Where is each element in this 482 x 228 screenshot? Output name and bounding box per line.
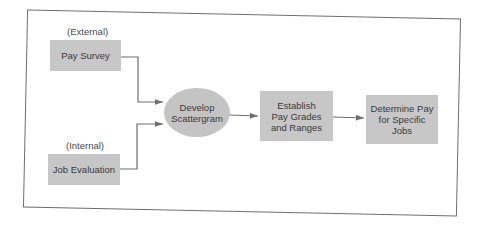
node-establish-pay-grades: Establish Pay Grades and Ranges: [260, 91, 333, 141]
flowchart-diagram: (External) Pay Survey (Internal) Job Eva…: [0, 0, 482, 228]
node-label: Pay Survey: [61, 50, 110, 61]
node-determine-pay: Determine Pay for Specific Jobs: [366, 95, 438, 144]
edge-establish-to-determine: [333, 117, 364, 118]
internal-caption: (Internal): [66, 140, 104, 151]
node-label: Determine Pay for Specific Jobs: [371, 103, 434, 136]
edge-pay-survey-to-scattergram: [120, 57, 163, 102]
node-job-evaluation: Job Evaluation: [48, 154, 120, 185]
node-label: Establish Pay Grades and Ranges: [271, 100, 322, 133]
edge-scattergram-to-establish: [229, 115, 258, 116]
edge-job-evaluation-to-scattergram: [119, 124, 163, 169]
external-caption: (External): [67, 26, 108, 37]
node-label: Develop Scattergram: [171, 102, 223, 124]
node-develop-scattergram: Develop Scattergram: [164, 88, 230, 137]
node-label: Job Evaluation: [53, 164, 115, 175]
node-pay-survey: Pay Survey: [50, 40, 121, 71]
